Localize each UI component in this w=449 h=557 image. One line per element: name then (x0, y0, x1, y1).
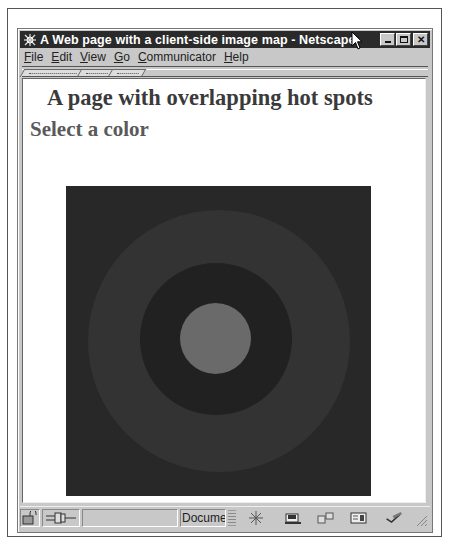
color-image-map[interactable] (66, 186, 371, 496)
discussion-icon[interactable] (317, 510, 335, 526)
hotspot-center-circle[interactable] (180, 303, 251, 374)
resize-grip-icon[interactable] (414, 513, 428, 527)
maximize-icon (400, 36, 408, 43)
page-subheading: Select a color (30, 117, 149, 142)
mouse-cursor-icon (351, 31, 365, 51)
menu-communicator[interactable]: Communicator (136, 50, 222, 65)
menu-view[interactable]: View (78, 50, 112, 65)
minimize-button[interactable] (380, 33, 395, 46)
component-bar-grip[interactable] (228, 510, 236, 526)
menu-go[interactable]: Go (112, 50, 136, 65)
menu-bar: File Edit View Go Communicator Help (22, 50, 255, 65)
connection-status (42, 509, 80, 527)
menu-file[interactable]: File (22, 50, 49, 65)
status-bar: Documer (20, 506, 430, 529)
page-content: A page with overlapping hot spots Select… (22, 78, 426, 503)
title-bar[interactable]: A Web page with a client-side image map … (20, 31, 430, 48)
menu-edit[interactable]: Edit (49, 50, 78, 65)
navigator-icon[interactable] (247, 510, 265, 526)
minimize-icon (385, 41, 391, 43)
window-title: A Web page with a client-side image map … (40, 33, 356, 47)
status-text (82, 509, 178, 527)
progress-label: Documer (180, 509, 226, 527)
close-icon: ✕ (417, 34, 425, 45)
close-button[interactable]: ✕ (413, 33, 428, 46)
aim-icon[interactable] (385, 510, 403, 526)
connection-plug-icon (45, 512, 77, 524)
security-button[interactable] (20, 509, 40, 527)
menu-help[interactable]: Help (222, 50, 255, 65)
toolbar-separator (22, 76, 428, 77)
netscape-logo-icon[interactable] (22, 32, 38, 48)
mailbox-icon[interactable] (284, 510, 302, 526)
page-heading: A page with overlapping hot spots (47, 85, 373, 111)
maximize-button[interactable] (396, 33, 411, 46)
composer-icon[interactable] (350, 510, 368, 526)
security-lock-icon (22, 511, 38, 525)
browser-window: A Web page with a client-side image map … (17, 28, 433, 533)
